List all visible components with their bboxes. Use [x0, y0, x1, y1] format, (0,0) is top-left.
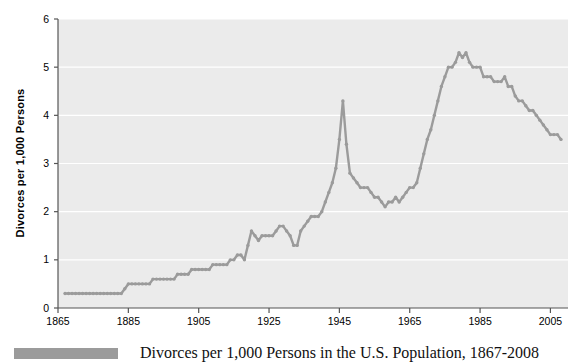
- data-point-marker: [102, 292, 105, 295]
- data-point-marker: [559, 138, 562, 141]
- data-point-marker: [274, 229, 277, 232]
- data-point-marker: [246, 244, 249, 247]
- data-point-marker: [331, 181, 334, 184]
- data-point-marker: [288, 234, 291, 237]
- x-tick-label: 1905: [187, 315, 211, 327]
- data-point-marker: [81, 292, 84, 295]
- line-chart: 0123456 18651885190519251945196519852005…: [0, 0, 575, 362]
- x-tick-label: 1985: [468, 315, 492, 327]
- data-point-marker: [225, 263, 228, 266]
- data-point-marker: [106, 292, 109, 295]
- y-tick-label: 6: [43, 13, 49, 25]
- data-point-marker: [426, 138, 429, 141]
- data-point-marker: [222, 263, 225, 266]
- figure-caption-text: Divorces per 1,000 Persons in the U.S. P…: [140, 344, 539, 362]
- data-point-marker: [243, 258, 246, 261]
- data-point-marker: [405, 191, 408, 194]
- data-point-marker: [422, 152, 425, 155]
- data-point-marker: [376, 196, 379, 199]
- data-point-marker: [338, 138, 341, 141]
- data-point-marker: [419, 167, 422, 170]
- data-point-marker: [204, 268, 207, 271]
- data-point-marker: [443, 75, 446, 78]
- y-axis-title: Divorces per 1,000 Persons: [14, 89, 26, 238]
- y-tick-label: 3: [43, 157, 49, 169]
- data-point-marker: [123, 287, 126, 290]
- data-point-marker: [471, 65, 474, 68]
- data-point-marker: [215, 263, 218, 266]
- data-point-marker: [542, 123, 545, 126]
- data-point-marker: [383, 205, 386, 208]
- data-point-marker: [236, 253, 239, 256]
- data-point-marker: [74, 292, 77, 295]
- data-point-marker: [412, 186, 415, 189]
- data-point-marker: [99, 292, 102, 295]
- data-point-marker: [366, 186, 369, 189]
- data-point-marker: [320, 210, 323, 213]
- data-point-marker: [492, 80, 495, 83]
- data-point-marker: [517, 99, 520, 102]
- data-point-marker: [197, 268, 200, 271]
- data-point-marker: [67, 292, 70, 295]
- data-point-marker: [176, 273, 179, 276]
- data-point-marker: [303, 224, 306, 227]
- data-point-marker: [120, 292, 123, 295]
- data-point-marker: [155, 277, 158, 280]
- data-point-marker: [295, 244, 298, 247]
- data-point-marker: [478, 65, 481, 68]
- data-point-marker: [341, 99, 344, 102]
- x-axis-ticks: 18651885190519251945196519852005: [46, 308, 562, 327]
- data-point-marker: [454, 61, 457, 64]
- data-point-marker: [151, 277, 154, 280]
- data-point-marker: [464, 51, 467, 54]
- data-point-marker: [499, 80, 502, 83]
- data-point-marker: [292, 244, 295, 247]
- data-point-marker: [211, 263, 214, 266]
- data-point-marker: [327, 191, 330, 194]
- data-point-marker: [503, 75, 506, 78]
- x-tick-label: 2005: [539, 315, 563, 327]
- data-point-marker: [408, 186, 411, 189]
- data-point-marker: [63, 292, 66, 295]
- x-tick-label: 1925: [257, 315, 281, 327]
- data-point-marker: [352, 176, 355, 179]
- data-point-marker: [390, 200, 393, 203]
- data-point-marker: [538, 118, 541, 121]
- data-point-marker: [394, 196, 397, 199]
- data-point-marker: [324, 200, 327, 203]
- data-point-marker: [88, 292, 91, 295]
- data-point-marker: [310, 215, 313, 218]
- data-point-marker: [514, 94, 517, 97]
- data-point-marker: [183, 273, 186, 276]
- data-point-marker: [84, 292, 87, 295]
- data-point-marker: [267, 234, 270, 237]
- data-point-marker: [482, 75, 485, 78]
- data-point-marker: [130, 282, 133, 285]
- data-point-marker: [281, 224, 284, 227]
- data-point-marker: [380, 200, 383, 203]
- data-point-marker: [345, 143, 348, 146]
- data-point-marker: [528, 109, 531, 112]
- data-point-marker: [148, 282, 151, 285]
- data-point-marker: [457, 51, 460, 54]
- data-point-marker: [70, 292, 73, 295]
- data-point-marker: [549, 133, 552, 136]
- legend-color-swatch: [14, 348, 118, 359]
- data-point-marker: [468, 61, 471, 64]
- data-point-marker: [239, 253, 242, 256]
- data-point-marker: [355, 181, 358, 184]
- data-point-marker: [271, 234, 274, 237]
- data-point-marker: [552, 133, 555, 136]
- data-point-marker: [373, 196, 376, 199]
- data-point-marker: [359, 186, 362, 189]
- data-point-marker: [278, 224, 281, 227]
- data-point-marker: [186, 273, 189, 276]
- data-point-marker: [208, 268, 211, 271]
- x-tick-label: 1865: [46, 315, 70, 327]
- y-tick-label: 1: [43, 253, 49, 265]
- data-point-marker: [232, 258, 235, 261]
- figure-caption-row: Divorces per 1,000 Persons in the U.S. P…: [0, 344, 575, 362]
- data-point-marker: [264, 234, 267, 237]
- data-point-marker: [172, 277, 175, 280]
- data-point-marker: [218, 263, 221, 266]
